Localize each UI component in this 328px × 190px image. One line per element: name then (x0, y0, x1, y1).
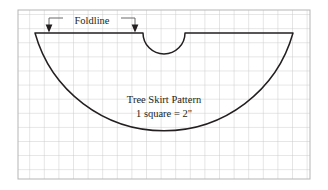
foldline-label: Foldline (74, 15, 109, 26)
tree-skirt-pattern-figure: Foldline Tree Skirt Pattern 1 square = 2… (0, 0, 328, 190)
pattern-diagram-canvas: Foldline Tree Skirt Pattern 1 square = 2… (0, 0, 328, 190)
pattern-scale-line: 1 square = 2" (136, 108, 192, 119)
pattern-title-line: Tree Skirt Pattern (127, 94, 202, 105)
